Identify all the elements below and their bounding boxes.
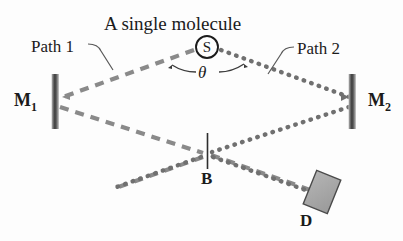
theta-arrow-left bbox=[168, 65, 172, 69]
label-path-1: Path 1 bbox=[31, 38, 74, 55]
interferometer-diagram: A single molecule Path 1 Path 2 M1 M2 θ … bbox=[0, 0, 403, 241]
label-beamsplitter: B bbox=[201, 170, 212, 187]
label-mirror-1: M1 bbox=[14, 91, 37, 113]
label-detector: D bbox=[300, 212, 312, 229]
path1-leader-line bbox=[88, 44, 113, 70]
label-path-2: Path 2 bbox=[297, 40, 340, 57]
mirror-2-subscript: 2 bbox=[385, 100, 391, 114]
mirror-2-letter: M bbox=[368, 90, 385, 110]
path1-to-detector bbox=[211, 155, 316, 192]
mirror-1-letter: M bbox=[14, 90, 31, 110]
path1-lower-segment bbox=[60, 107, 203, 153]
path2-lower-segment bbox=[212, 107, 349, 152]
theta-arc-left bbox=[172, 65, 196, 72]
label-mirror-2: M2 bbox=[368, 91, 391, 113]
theta-arc-right bbox=[219, 64, 244, 72]
detector-box bbox=[303, 170, 341, 213]
label-source: S bbox=[203, 40, 211, 55]
path2-arrowhead bbox=[341, 93, 349, 101]
path2-exit-beam bbox=[111, 157, 201, 189]
figure-title: A single molecule bbox=[104, 14, 241, 33]
mirror-left bbox=[52, 74, 60, 129]
mirror-1-subscript: 1 bbox=[31, 100, 37, 114]
path1-upper-segment bbox=[60, 50, 194, 98]
mirror-right bbox=[349, 74, 357, 129]
label-angle-theta: θ bbox=[198, 64, 206, 81]
theta-arrow-right bbox=[244, 64, 248, 68]
